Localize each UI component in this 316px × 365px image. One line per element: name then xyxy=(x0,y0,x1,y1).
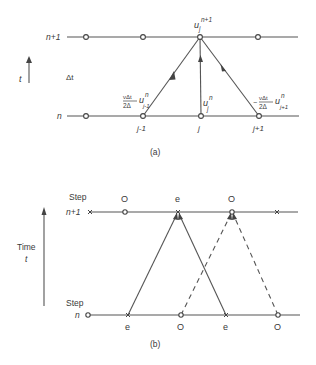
level-label-n-plus-1: n+1 xyxy=(46,32,61,42)
solid-arrow xyxy=(180,216,226,315)
mark-label-even: e xyxy=(175,194,180,204)
index-label-j-plus-1: j+1 xyxy=(252,124,264,133)
grid-node xyxy=(84,114,89,119)
diagram-a: t Δt n+1 n u j n+1 u j xyxy=(19,16,299,157)
mark-label-odd: O xyxy=(228,194,235,204)
label-right-coefficient: − νΔt 2Δ u j+1 n xyxy=(253,92,288,110)
stencil-line-right xyxy=(200,37,259,116)
arrowhead-icon xyxy=(173,213,178,221)
solid-arrow xyxy=(128,216,176,315)
time-symbol-label: t xyxy=(25,254,28,264)
arrowhead-icon xyxy=(178,213,183,221)
grid-node xyxy=(141,35,146,40)
caption-a: (a) xyxy=(150,147,161,157)
svg-text:−: − xyxy=(253,99,257,106)
grid-node xyxy=(256,35,261,40)
svg-text:j-1: j-1 xyxy=(142,103,150,109)
mark-label-odd: O xyxy=(121,194,128,204)
svg-text:j+1: j+1 xyxy=(279,104,288,110)
time-axis-label: Time xyxy=(17,242,36,252)
step-word-bottom: Step xyxy=(66,298,84,308)
mark-label-even: e xyxy=(223,322,228,332)
svg-text:n+1: n+1 xyxy=(201,16,212,23)
grid-node-j-minus-1 xyxy=(141,114,146,119)
grid-node-j xyxy=(199,114,204,119)
odd-point-circle xyxy=(179,313,183,317)
label-left-coefficient: νΔt 2Δ u j-1 n xyxy=(123,91,150,109)
svg-text:n: n xyxy=(209,94,213,101)
odd-point-circle xyxy=(230,210,234,214)
grid-node xyxy=(84,35,89,40)
dashed-arrow xyxy=(181,216,230,315)
grid-node-target xyxy=(198,35,203,40)
delta-t-label: Δt xyxy=(66,73,74,82)
svg-text:n: n xyxy=(145,91,149,98)
grid-node-j-plus-1 xyxy=(257,114,262,119)
mark-label-even: e xyxy=(125,322,130,332)
time-axis-label: t xyxy=(19,74,22,84)
svg-text:j: j xyxy=(206,105,209,113)
arrowhead-icon xyxy=(198,55,203,62)
diagram-b: Time t Step n+1 Step n O e xyxy=(17,192,300,349)
svg-text:νΔt: νΔt xyxy=(259,95,268,101)
step-word-top: Step xyxy=(69,192,87,202)
svg-text:νΔt: νΔt xyxy=(123,94,132,100)
step-label-n-plus-1: n+1 xyxy=(66,207,81,217)
time-arrow-icon xyxy=(42,207,47,306)
arrowhead-icon xyxy=(221,64,227,72)
mark-label-odd: O xyxy=(274,322,281,332)
index-label-j: j xyxy=(197,124,200,133)
mark-label-odd: O xyxy=(177,322,184,332)
odd-point-circle xyxy=(276,313,280,317)
time-arrow-icon xyxy=(26,56,32,83)
svg-text:n: n xyxy=(281,92,285,99)
odd-point-circle xyxy=(86,313,90,317)
odd-point-circle xyxy=(123,210,127,214)
svg-text:2Δ: 2Δ xyxy=(259,103,268,110)
stencil-diagram: t Δt n+1 n u j n+1 u j xyxy=(0,0,316,365)
index-label-j-minus-1: j-1 xyxy=(136,124,146,133)
label-u-j-n-plus-1: u j n+1 xyxy=(194,16,212,33)
svg-text:j: j xyxy=(198,25,201,33)
dashed-arrow xyxy=(234,216,278,315)
caption-b: (b) xyxy=(150,339,161,349)
label-u-j-n: u j n xyxy=(203,94,213,113)
stencil-line-center xyxy=(200,37,201,116)
step-label-n: n xyxy=(75,310,80,320)
level-label-n: n xyxy=(57,111,62,121)
svg-text:2Δ: 2Δ xyxy=(123,102,132,109)
